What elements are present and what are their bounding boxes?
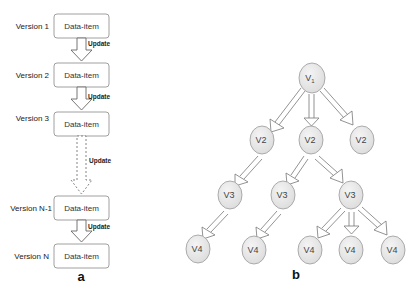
svg-text:V4: V4	[303, 245, 314, 255]
version-row-n: Version N Data-item	[14, 244, 109, 268]
node-v4: V4	[186, 235, 210, 263]
version-label: Version 2	[16, 71, 50, 80]
data-item-label: Data-item	[64, 120, 99, 129]
data-item-label: Data-item	[64, 252, 99, 261]
update-label: Update	[88, 223, 110, 231]
data-item-label: Data-item	[64, 71, 99, 80]
tree-edges	[202, 88, 387, 239]
edge-v1-v2c	[320, 88, 353, 125]
edge-v2b-v3c	[315, 156, 343, 183]
node-v2: V2	[350, 126, 374, 154]
dashed-block-arrow-icon	[71, 136, 92, 194]
panel-a: Version 1 Data-item Version 2 Data-item …	[10, 14, 111, 284]
edge-v3c-v4e	[358, 207, 387, 235]
version-label: Version N-1	[10, 204, 52, 213]
svg-text:V4: V4	[247, 245, 258, 255]
update-arrow-2: Update	[71, 87, 110, 110]
node-v4: V4	[298, 236, 322, 264]
node-v2: V2	[250, 126, 274, 154]
edge-v3c-v4d	[344, 212, 359, 234]
update-arrow-4: Update	[71, 220, 110, 242]
update-arrow-1: Update	[71, 38, 110, 61]
svg-text:V4: V4	[344, 245, 355, 255]
svg-text:V3: V3	[276, 190, 287, 200]
svg-text:V2: V2	[255, 135, 266, 145]
edge-v3c-v4c	[317, 208, 345, 238]
edge-v1-v2a	[270, 88, 305, 132]
version-label: Version 3	[16, 114, 50, 123]
update-label: Update	[88, 40, 110, 48]
svg-text:V4: V4	[191, 244, 202, 254]
node-v2: V2	[299, 126, 323, 154]
edge-v2b-v3b	[286, 156, 308, 185]
edge-v1-v2b	[304, 94, 319, 126]
version-row-2: Version 2 Data-item	[16, 63, 109, 87]
edge-v3a-v4a	[202, 211, 228, 239]
panel-label-b: b	[292, 267, 300, 282]
panel-b: V1 V2 V2 V2 V3 V3 V3 V4	[186, 63, 405, 282]
svg-text:V2: V2	[355, 135, 366, 145]
node-v4: V4	[381, 236, 405, 264]
version-diagram: Version 1 Data-item Version 2 Data-item …	[0, 0, 417, 289]
update-label: Update	[89, 157, 111, 165]
node-v4: V4	[339, 236, 363, 264]
node-v3: V3	[218, 181, 242, 209]
version-row-1: Version 1 Data-item	[16, 14, 109, 38]
version-label: Version N	[14, 252, 49, 261]
update-arrow-3: Update	[71, 136, 111, 194]
panel-label-a: a	[77, 269, 85, 284]
svg-text:V4: V4	[386, 245, 397, 255]
svg-text:V2: V2	[304, 135, 315, 145]
svg-text:V3: V3	[344, 190, 355, 200]
node-v4: V4	[242, 236, 266, 264]
data-item-label: Data-item	[64, 204, 99, 213]
svg-text:V3: V3	[223, 190, 234, 200]
version-label: Version 1	[16, 22, 50, 31]
node-v1: V1	[299, 63, 325, 93]
update-label: Update	[88, 93, 110, 101]
version-row-n-minus-1: Version N-1 Data-item	[10, 196, 109, 220]
node-v3: V3	[339, 181, 363, 209]
node-v3: V3	[271, 181, 295, 209]
data-item-label: Data-item	[64, 22, 99, 31]
edge-v3b-v4b	[256, 211, 281, 239]
version-row-3: Version 3 Data-item	[16, 112, 109, 136]
edge-v2a-v3a	[235, 156, 262, 186]
